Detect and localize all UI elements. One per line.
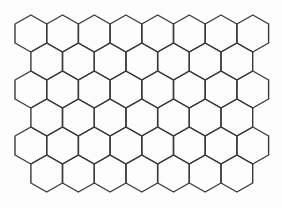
- hexagon-cell: [221, 155, 253, 192]
- hexagon-cell: [63, 155, 95, 192]
- hexagon-cell: [94, 155, 126, 192]
- hexagon-cell: [189, 155, 221, 192]
- hexagon-cell: [126, 155, 158, 192]
- hexagon-cell: [158, 155, 190, 192]
- hexagon-grid: [0, 0, 282, 208]
- hexagon-cell: [31, 155, 63, 192]
